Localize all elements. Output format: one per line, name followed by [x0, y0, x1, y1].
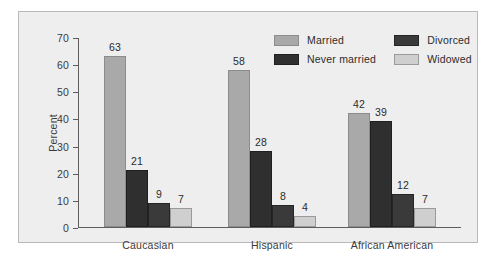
bar[interactable] [104, 56, 126, 227]
bar-column[interactable]: 7 [414, 37, 436, 227]
y-axis-tick-label: 60 [57, 59, 69, 71]
bar[interactable] [170, 208, 192, 227]
y-axis-tick [73, 228, 78, 229]
bar[interactable] [370, 121, 392, 227]
bar-column[interactable]: 42 [348, 37, 370, 227]
bar[interactable] [148, 203, 170, 227]
legend-label: Never married [307, 53, 376, 65]
legend-item[interactable]: Divorced [394, 34, 472, 46]
bar-value-label: 21 [131, 155, 143, 167]
legend-swatch [274, 54, 299, 65]
bar-value-label: 39 [375, 106, 387, 118]
y-axis-tick [73, 65, 78, 66]
bar-value-label: 28 [255, 136, 267, 148]
bar-value-label: 58 [233, 55, 245, 67]
bar-value-label: 7 [422, 193, 428, 205]
chart-figure: Percent 010203040506070 632197Caucasian5… [18, 11, 478, 243]
legend-label: Divorced [427, 34, 470, 46]
y-axis-tick [73, 147, 78, 148]
bar[interactable] [126, 170, 148, 227]
y-axis-tick [73, 38, 78, 39]
legend-item[interactable]: Widowed [394, 53, 472, 65]
bar-column[interactable]: 21 [126, 37, 148, 227]
bar[interactable] [272, 205, 294, 227]
y-axis-tick-label: 70 [57, 32, 69, 44]
bar-column[interactable]: 28 [250, 37, 272, 227]
bar-value-label: 8 [280, 190, 286, 202]
bar-column[interactable]: 63 [104, 37, 126, 227]
bar-column[interactable]: 7 [170, 37, 192, 227]
bar-column[interactable]: 12 [392, 37, 414, 227]
x-axis-tick-label: African American [351, 239, 434, 251]
bar[interactable] [250, 151, 272, 227]
y-axis-line [78, 38, 79, 228]
bar-column[interactable]: 4 [294, 37, 316, 227]
bar-value-label: 7 [178, 193, 184, 205]
y-axis-tick-label: 10 [57, 195, 69, 207]
legend-swatch [274, 35, 299, 46]
bar[interactable] [414, 208, 436, 227]
bar-value-label: 63 [109, 41, 121, 53]
x-axis-tick-label: Caucasian [122, 239, 173, 251]
y-axis-tick-label: 0 [63, 222, 69, 234]
y-axis-tick [73, 201, 78, 202]
legend-swatch [394, 35, 419, 46]
bar-column[interactable]: 8 [272, 37, 294, 227]
bar[interactable] [392, 194, 414, 227]
y-axis-tick-label: 30 [57, 141, 69, 153]
y-axis-tick-label: 50 [57, 86, 69, 98]
bar-value-label: 4 [302, 201, 308, 213]
plot-area: Percent 010203040506070 632197Caucasian5… [78, 38, 461, 228]
bar-column[interactable]: 39 [370, 37, 392, 227]
x-axis-tick-label: Hispanic [251, 239, 293, 251]
y-axis-tick [73, 119, 78, 120]
bar[interactable] [348, 113, 370, 227]
legend-label: Married [307, 34, 344, 46]
bar-column[interactable]: 58 [228, 37, 250, 227]
bar-value-label: 12 [397, 179, 409, 191]
bar-value-label: 9 [156, 188, 162, 200]
legend-label: Widowed [427, 53, 472, 65]
bar-column[interactable]: 9 [148, 37, 170, 227]
bar-value-label: 42 [353, 98, 365, 110]
bar[interactable] [228, 70, 250, 227]
bar[interactable] [294, 216, 316, 227]
chart-legend: MarriedDivorcedNever marriedWidowed [274, 34, 472, 65]
y-axis-tick-label: 20 [57, 168, 69, 180]
y-axis-tick [73, 92, 78, 93]
legend-swatch [394, 54, 419, 65]
y-axis-tick [73, 174, 78, 175]
legend-item[interactable]: Never married [274, 53, 376, 65]
y-axis-tick-label: 40 [57, 113, 69, 125]
x-axis-line [78, 227, 461, 228]
legend-item[interactable]: Married [274, 34, 376, 46]
